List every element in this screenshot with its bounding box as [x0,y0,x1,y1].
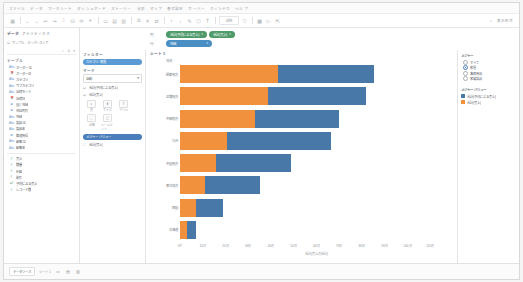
bar-segment[interactable] [180,110,255,128]
highlight-icon[interactable]: ✎ [186,17,193,24]
bar-row[interactable]: 中国地方 [180,152,453,174]
new-data-source-icon[interactable]: ⛁ [69,17,76,24]
menu-item-window[interactable]: ウィンドウ [210,6,231,11]
new-story-icon[interactable]: ▥ [120,17,127,24]
help-icon[interactable]: ◔ [487,17,494,24]
bar-segment[interactable] [255,110,339,128]
bar-segment[interactable] [268,87,366,105]
show-labels-icon[interactable]: T [204,17,211,24]
menu-item-dashboard[interactable]: ダッシュボード [77,6,106,11]
bar-row[interactable]: 近畿地方 [180,85,453,107]
tab-analytics[interactable]: アナリティクス [22,31,50,36]
fit-dropdown-icon[interactable]: ▽ [241,17,248,24]
marks-row[interactable]: ☑ 合計(予測による売上) [83,85,142,91]
columns-dropzone[interactable]: 合計(予測による売上)▾ 合計(売上)▾ [166,31,515,38]
sort-descending-icon[interactable]: ↓ [177,17,184,24]
columns-pill[interactable]: 合計(売上)▾ [209,31,235,38]
bar-segment[interactable] [180,154,216,172]
bar-segment[interactable] [216,154,291,172]
menu-item-help[interactable]: ヘルプ [235,6,247,11]
bar-segment[interactable] [180,87,268,105]
marks-detail-row[interactable]: ⬚ 合計(売上) [83,141,142,147]
new-worksheet-icon[interactable]: ▭ [55,269,61,275]
search-icon[interactable]: ⌕ ⇅ ▾ [62,49,76,53]
rows-pill[interactable]: 地域▾ [166,40,212,47]
duplicate-icon[interactable]: ⧉ [135,17,142,24]
bar-segment[interactable] [180,65,278,83]
checkbox-icon[interactable]: ☑ [83,93,87,97]
bar-segment[interactable] [180,132,227,150]
bar-row[interactable]: 四国 [180,197,453,219]
back-icon[interactable]: ← [24,17,31,24]
sort-ascending-icon[interactable]: ↑ [168,17,175,24]
bar-segment[interactable] [196,199,222,217]
menu-item-analysis[interactable]: 分析 [137,6,145,11]
search-input[interactable]: ⌕ ⇅ ▾ [7,48,76,55]
checkbox-icon[interactable]: ☑ [83,86,87,90]
fix-axes-icon[interactable]: ⇱ [274,17,281,24]
menu-item-worksheet[interactable]: ワークシート [48,6,73,11]
fit-selector[interactable]: 標準 [219,16,239,25]
columns-pill[interactable]: 合計(予測による売上)▾ [166,31,207,38]
bar-segment[interactable] [227,132,332,150]
group-members-icon[interactable]: ⬡ [195,17,202,24]
pause-query-icon[interactable]: ⏸ [87,17,94,24]
menu-bar: ファイル データ ワークシート ダッシュボード ストーリー 分析 マップ 書式設… [4,3,519,14]
save-icon[interactable]: ⌷ [60,17,67,24]
menu-item-file[interactable]: ファイル [9,6,25,11]
marks-row-label: 合計(売上) [89,92,103,97]
new-worksheet-icon[interactable]: ▭ [102,17,109,24]
rows-dropzone[interactable]: 地域▾ [166,40,515,47]
new-story-icon[interactable]: ▥ [75,269,81,275]
clear-sheet-icon[interactable]: ✕ [144,17,151,24]
bar-segment[interactable] [180,199,196,217]
forward-icon[interactable]: → [33,17,40,24]
bar-row[interactable]: 東北地方 [180,174,453,196]
detail-button[interactable]: ⬚ 詳細 [85,114,98,131]
datasource-tab[interactable]: データソース [9,267,35,276]
color-button[interactable]: ◐ 色 [85,100,98,113]
measure-values-pill[interactable]: メジャー バリュー [83,134,142,140]
menu-item-data[interactable]: データ [30,6,42,11]
new-dashboard-icon[interactable]: ▤ [65,269,71,275]
redo-icon[interactable]: ↪ [51,17,58,24]
mark-type-selector[interactable]: 自動 ▾ [83,74,142,83]
datasource-item[interactable]: ⛁ サンプル - スーパーストア [4,38,79,47]
sheet-tab[interactable]: シート 1 [39,269,51,274]
bar-row[interactable]: 中部地方 [180,108,453,130]
columns-shelf[interactable]: 列 合計(予測による売上)▾ 合計(売上)▾ [150,30,515,39]
swap-rows-columns-icon[interactable]: ⇄ [153,17,160,24]
legend-entry[interactable]: 合計(売上) [461,99,516,105]
tableau-logo-icon[interactable]: ▦ [9,17,16,24]
new-dashboard-icon[interactable]: ▤ [111,17,118,24]
undo-icon[interactable]: ↩ [42,17,49,24]
bar-stack [180,152,453,174]
bar-segment[interactable] [205,176,260,194]
filter-pill[interactable]: カテゴリ: 家具 [83,59,142,65]
menu-item-server[interactable]: サーバー [188,6,204,11]
bar-segment[interactable] [187,221,196,239]
label-button[interactable]: T ラベル [117,100,130,113]
menu-item-format[interactable]: 書式設定 [167,6,183,11]
rows-shelf[interactable]: 行 地域▾ [150,39,515,48]
show-me-label[interactable]: 表示形式 [497,18,513,23]
presentation-mode-icon[interactable]: ▷ [265,17,272,24]
show-me-icon[interactable]: ▩ [256,17,263,24]
field-item[interactable]: #レコード数 [4,187,79,193]
x-axis-tick: 70万 [336,243,342,248]
field-item[interactable]: Abc顧客名 [4,144,79,150]
bar-row[interactable]: 九州 [180,130,453,152]
menu-item-map[interactable]: マップ [150,6,162,11]
bar-segment[interactable] [180,221,187,239]
bar-row[interactable]: 関東地方 [180,63,453,85]
x-axis-tick: 90万 [382,243,388,248]
tooltip-button[interactable]: ▢ ツールヒント [101,114,114,131]
refresh-data-icon[interactable]: ⟳ [78,17,85,24]
marks-row[interactable]: ☑ 合計(売上) [83,92,142,98]
size-button[interactable]: ⬍ サイズ [101,100,114,113]
tab-data[interactable]: データ [7,31,19,36]
bar-segment[interactable] [180,176,205,194]
bar-row[interactable]: 北海道 [180,219,453,241]
menu-item-story[interactable]: ストーリー [111,6,132,11]
bar-segment[interactable] [278,65,374,83]
